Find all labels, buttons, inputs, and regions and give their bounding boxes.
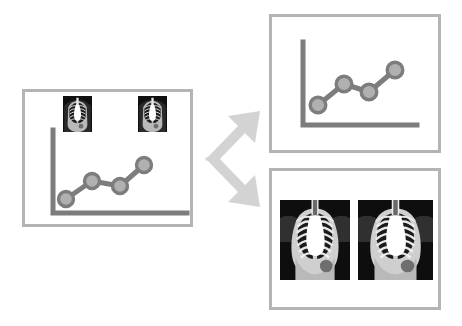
- line-chart-extracted[interactable]: [297, 39, 422, 134]
- line-chart-extracted-graphic: [297, 39, 422, 134]
- panel-combined-record[interactable]: Combined multimodal record: trend chart …: [22, 89, 193, 227]
- xray-image-1[interactable]: [280, 200, 350, 280]
- xray-image-1-graphic: [280, 200, 350, 280]
- xray-image-2-graphic: [358, 200, 433, 280]
- xray-image-2[interactable]: [358, 200, 433, 280]
- chart-series-line: [318, 70, 395, 105]
- panel-images-only[interactable]: Extracted chest X-ray images: [269, 168, 441, 310]
- chart-series-line: [66, 165, 144, 199]
- line-chart-combined-graphic: [47, 127, 192, 222]
- panel-chart-only-caption: Extracted numeric trend chart: [271, 16, 272, 17]
- arrow-head-down-right: [205, 155, 260, 207]
- split-arrow-graphic: [198, 104, 264, 214]
- panel-chart-only[interactable]: Extracted numeric trend chart: [269, 14, 441, 153]
- panel-combined-caption: Combined multimodal record: trend chart …: [24, 91, 25, 92]
- line-chart-combined[interactable]: [47, 127, 192, 222]
- arrow-head-up-right: [205, 111, 260, 163]
- panel-images-only-caption: Extracted chest X-ray images: [271, 170, 272, 171]
- diagram-canvas: Multimodal record split into tabular cha…: [0, 0, 462, 326]
- split-arrow: [198, 104, 264, 214]
